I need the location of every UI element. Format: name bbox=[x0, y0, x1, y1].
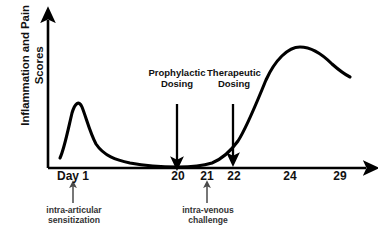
x-tick-label-day-1: Day 1 bbox=[43, 170, 103, 183]
chart-figure: Inflammation and Pain Scores Day 1 20 21… bbox=[0, 0, 378, 240]
x-tick-label-29: 29 bbox=[320, 170, 360, 183]
y-axis-title-line-1: Inflammation and Pain bbox=[19, 0, 32, 145]
intra-articular-sensitization-label-line-2: sensitization bbox=[19, 216, 129, 226]
x-tick-label-24: 24 bbox=[270, 170, 310, 183]
y-axis-title: Inflammation and Pain Scores bbox=[19, 0, 46, 145]
intra-venous-challenge-label: intra-venous challenge bbox=[153, 206, 263, 225]
x-tick-label-22: 22 bbox=[214, 170, 254, 183]
data-curve bbox=[60, 47, 350, 167]
chart-plot-area bbox=[0, 0, 378, 240]
y-axis-title-line-2: Scores bbox=[33, 0, 46, 145]
intra-venous-challenge-label-line-2: challenge bbox=[153, 216, 263, 226]
therapeutic-dosing-label: Therapeutic Dosing bbox=[190, 68, 278, 89]
intra-articular-sensitization-label: intra-articular sensitization bbox=[19, 206, 129, 225]
therapeutic-dosing-label-line-2: Dosing bbox=[190, 79, 278, 90]
